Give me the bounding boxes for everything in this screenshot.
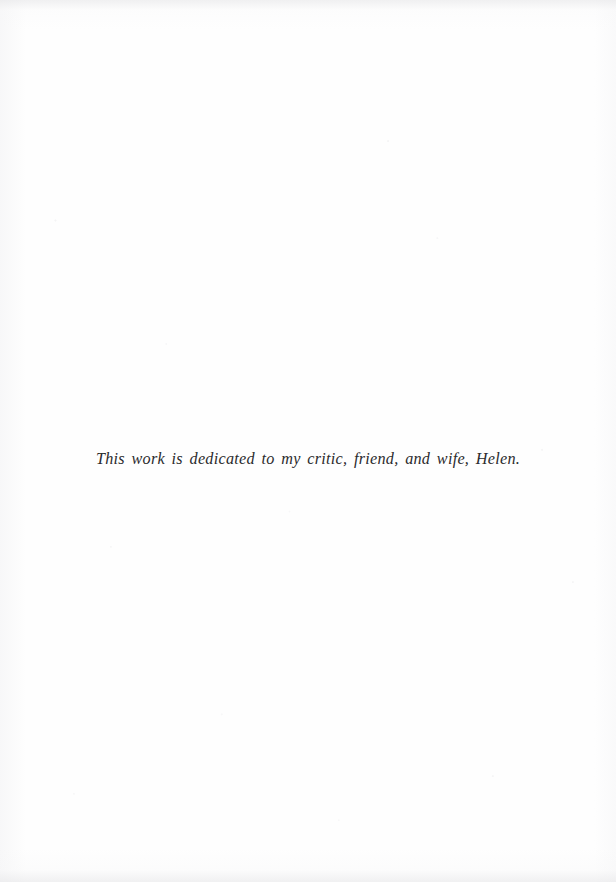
paper-speckle-overlay	[0, 0, 616, 882]
dedication-block: This work is dedicated to my critic, fri…	[0, 448, 616, 470]
dedication-text: This work is dedicated to my critic, fri…	[96, 448, 520, 470]
scanned-page: This work is dedicated to my critic, fri…	[0, 0, 616, 882]
paper-tone-overlay	[0, 0, 616, 882]
